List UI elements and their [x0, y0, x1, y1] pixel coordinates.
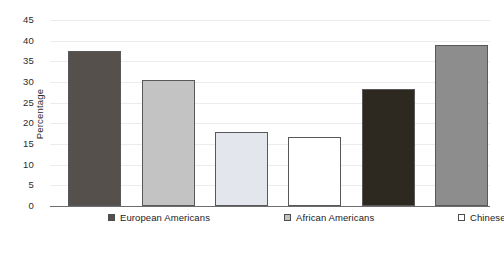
bar-chart: Percentage 454035302520151050 European A… — [0, 0, 504, 272]
legend-item-label: European Americans — [120, 212, 210, 223]
legend-swatch-icon — [108, 214, 115, 221]
legend-item-european-americans[interactable]: European Americans — [108, 212, 284, 223]
legend-item-label: African Americans — [296, 212, 374, 223]
legend-swatch-icon — [458, 214, 465, 221]
x-axis-baseline — [50, 206, 490, 207]
y-axis-tick-label: 15 — [10, 139, 34, 149]
bar-puerto-ricans — [435, 45, 488, 206]
y-axis-tick-label: 45 — [10, 15, 34, 25]
bar-european-americans — [68, 51, 121, 206]
y-axis-tick-label: 20 — [10, 118, 34, 128]
y-axis-label: Percentage — [34, 88, 45, 139]
plot-area: Percentage 454035302520151050 — [50, 20, 490, 207]
legend-item-label: Chinese Americans — [470, 212, 504, 223]
bar-chinese-americans — [215, 132, 268, 206]
bar-filipino-americans — [288, 137, 341, 206]
y-axis-tick-label: 25 — [10, 98, 34, 108]
chart-legend: European AmericansAfrican AmericansChine… — [108, 210, 458, 225]
y-axis-tick-label: 5 — [10, 180, 34, 190]
bar-african-americans — [142, 80, 195, 206]
y-axis-tick-label: 40 — [10, 36, 34, 46]
legend-item-african-americans[interactable]: African Americans — [284, 212, 458, 223]
legend-item-chinese-americans[interactable]: Chinese Americans — [458, 212, 504, 223]
bars-layer — [50, 20, 490, 206]
y-axis-tick-label: 10 — [10, 160, 34, 170]
y-axis-tick-label: 30 — [10, 77, 34, 87]
y-axis-tick-label: 35 — [10, 56, 34, 66]
y-axis-tick-label: 0 — [10, 201, 34, 211]
legend-swatch-icon — [284, 214, 291, 221]
bar-mexican-americans — [362, 89, 415, 206]
